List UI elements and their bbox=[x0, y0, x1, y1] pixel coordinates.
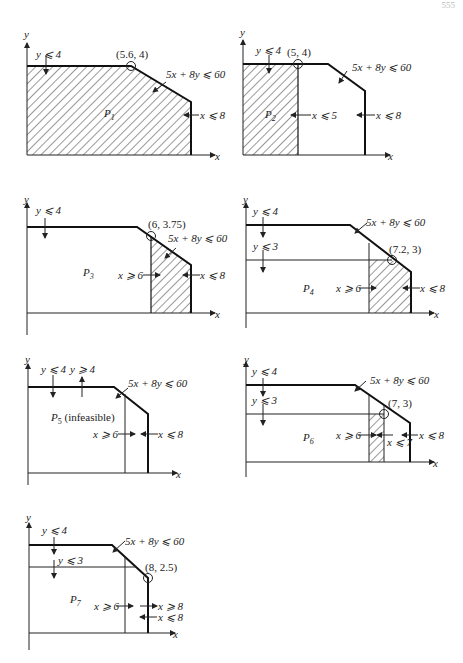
label-y3: y ⩽ 3 bbox=[252, 240, 278, 252]
x-axis-label: x bbox=[214, 308, 220, 320]
label-line: 5x + 8y ⩽ 60 bbox=[166, 68, 226, 80]
label-x8: x ⩽ 8 bbox=[157, 428, 183, 440]
panel-label: P5 (infeasible) bbox=[50, 411, 115, 426]
label-y4: y ⩽ 4 bbox=[41, 524, 67, 536]
label-y4: y ⩽ 4 bbox=[35, 48, 61, 60]
y-axis-label: y bbox=[24, 353, 30, 365]
x-axis-label: x bbox=[214, 150, 220, 162]
label-line: 5x + 8y ⩽ 60 bbox=[168, 232, 228, 244]
optimum-label: (5.6, 4) bbox=[116, 48, 148, 61]
x-axis-label: x bbox=[432, 457, 438, 469]
x-axis-label: x bbox=[172, 628, 178, 640]
region-boundary bbox=[29, 545, 148, 633]
label-line: 5x + 8y ⩽ 60 bbox=[352, 61, 412, 73]
label-x7: x ⩽ 7 bbox=[386, 436, 412, 448]
panel-p1: y x y ⩽ 4 (5.6, 4) 5x + 8y ⩽ 60 x ⩽ 8 P1 bbox=[23, 28, 226, 162]
label-x6: x ⩾ 6 bbox=[117, 269, 143, 281]
label-x8: x ⩽ 8 bbox=[199, 109, 225, 121]
label-x6: x ⩾ 6 bbox=[92, 428, 118, 440]
panel-label: P3 bbox=[82, 266, 94, 281]
label-x5: x ⩽ 5 bbox=[311, 109, 337, 121]
y-axis-label: y bbox=[242, 193, 248, 205]
optimum-label: (5, 4) bbox=[287, 46, 311, 59]
label-line: 5x + 8y ⩽ 60 bbox=[125, 535, 185, 547]
y-axis-label: y bbox=[239, 26, 245, 38]
label-line: 5x + 8y ⩽ 60 bbox=[128, 377, 188, 389]
label-x8: x ⩽ 8 bbox=[418, 429, 444, 441]
label-y4: y ⩽ 4 bbox=[35, 204, 61, 216]
y-axis-label: y bbox=[23, 193, 29, 205]
label-y4: y ⩽ 4 bbox=[251, 365, 277, 377]
label-x8: x ⩽ 8 bbox=[157, 611, 183, 623]
optimum-label: (7, 3) bbox=[388, 397, 412, 410]
panel-label: P6 bbox=[302, 431, 314, 446]
label-y3: y ⩽ 3 bbox=[251, 394, 277, 406]
label-x6: x ⩾ 6 bbox=[93, 600, 119, 612]
panel-p2: y x y ⩽ 4 (5, 4) 5x + 8y ⩽ 60 x ⩽ 5 x ⩽ … bbox=[239, 26, 412, 162]
panel-p6: y x y ⩽ 4 y ⩽ 3 (7, 3) 5x + 8y ⩽ 60 x ⩾ … bbox=[243, 353, 444, 477]
optimum-label: (6, 3.75) bbox=[148, 218, 186, 231]
label-y4: y ⩽ 4 bbox=[252, 205, 278, 217]
label-x6: x ⩾ 6 bbox=[335, 282, 361, 294]
x-axis-label: x bbox=[387, 150, 393, 162]
x-axis-label: x bbox=[433, 308, 439, 320]
label-line: 5x + 8y ⩽ 60 bbox=[370, 374, 430, 386]
label-x8: x ⩽ 8 bbox=[375, 109, 401, 121]
label-ygeq4: y ⩾ 4 bbox=[69, 363, 95, 375]
panel-p3: y x y ⩽ 4 (6, 3.75) 5x + 8y ⩽ 60 x ⩾ 6 x… bbox=[23, 193, 228, 335]
y-axis-label: y bbox=[23, 28, 29, 40]
y-axis-label: y bbox=[25, 511, 31, 523]
label-x6: x ⩾ 6 bbox=[335, 429, 361, 441]
label-x8: x ⩽ 8 bbox=[199, 269, 225, 281]
panel-p5: y x y ⩽ 4 y ⩾ 4 5x + 8y ⩽ 60 x ⩾ 6 x ⩽ 8… bbox=[24, 353, 188, 485]
region-boundary bbox=[28, 387, 148, 473]
label-y3: y ⩽ 3 bbox=[57, 554, 83, 566]
panel-label: P4 bbox=[302, 282, 314, 297]
panel-p4: y x y ⩽ 4 y ⩽ 3 (7.2, 3) 5x + 8y ⩽ 60 x … bbox=[242, 193, 445, 328]
label-line: 5x + 8y ⩽ 60 bbox=[366, 216, 426, 228]
label-x8: x ⩽ 8 bbox=[419, 282, 445, 294]
panel-label: P7 bbox=[69, 593, 82, 608]
y-axis-label: y bbox=[243, 353, 249, 365]
feasible-region-hatch bbox=[369, 414, 384, 462]
label-y4: y ⩽ 4 bbox=[40, 363, 66, 375]
panel-p7: y x y ⩽ 4 y ⩽ 3 (8, 2.5) 5x + 8y ⩽ 60 x … bbox=[25, 511, 185, 650]
optimum-label: (7.2, 3) bbox=[389, 243, 421, 256]
diagram-canvas: y x y ⩽ 4 (5.6, 4) 5x + 8y ⩽ 60 x ⩽ 8 P1… bbox=[0, 0, 463, 663]
optimum-label: (8, 2.5) bbox=[145, 561, 177, 574]
x-axis-label: x bbox=[175, 468, 181, 480]
label-y4: y ⩽ 4 bbox=[255, 44, 281, 56]
